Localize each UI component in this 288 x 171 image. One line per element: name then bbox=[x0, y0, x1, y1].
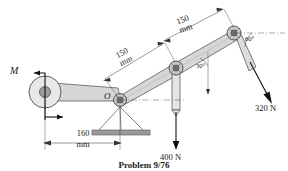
ground-support-leg-right bbox=[120, 107, 143, 130]
dim-160-arrowhead-right bbox=[114, 141, 122, 146]
moment-arrowhead bbox=[34, 71, 40, 76]
dim-150-upper-ext-end bbox=[224, 9, 233, 26]
force-400-arrowhead bbox=[173, 141, 180, 150]
dim-150-lower-ext-end bbox=[165, 43, 175, 62]
moment-couple-arrowhead bbox=[57, 115, 63, 120]
mechanism-diagram bbox=[0, 0, 288, 171]
dim-160-label: 160 mm bbox=[63, 129, 103, 148]
dim-150-lower-line bbox=[105, 44, 163, 79]
force-320-label: 320 N bbox=[255, 104, 276, 113]
dim-160-arrowhead-left bbox=[43, 141, 51, 146]
ground-support-leg-left bbox=[99, 107, 120, 130]
vertical-reference-30-arrowhead bbox=[206, 89, 210, 95]
angle-60-label: 60° bbox=[245, 36, 254, 43]
figure-caption: Problem 9/76 bbox=[94, 161, 194, 170]
moment-label: M bbox=[10, 66, 18, 76]
pivot-point-label: O bbox=[104, 92, 111, 101]
dim-160-unit: mm bbox=[63, 140, 103, 149]
force-320-line bbox=[250, 62, 268, 96]
dim-160-value: 160 bbox=[63, 129, 103, 138]
dim-150-upper-line bbox=[165, 10, 222, 40]
angle-30-label: 30° bbox=[196, 63, 205, 70]
